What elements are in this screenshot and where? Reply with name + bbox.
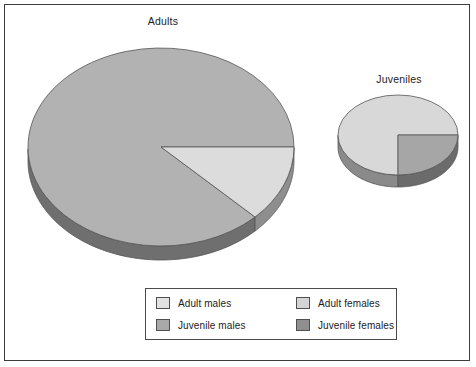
chart-canvas: Adults Juveniles Adult males Adult femal…: [0, 0, 476, 367]
chart-title-adults: Adults: [0, 15, 326, 27]
chart-legend: Adult males Adult females Juvenile males…: [145, 288, 397, 340]
legend-item-adult-females: Adult females: [296, 297, 396, 309]
legend-item-juvenile-males: Juvenile males: [156, 319, 296, 331]
pie-adults-svg: [0, 0, 340, 290]
legend-swatch-icon-adult-females: [296, 297, 310, 309]
legend-swatch-icon-juvenile-males: [156, 319, 170, 331]
pie-chart-adults: [0, 0, 340, 290]
legend-label-adult-males: Adult males: [178, 298, 231, 309]
legend-label-adult-females: Adult females: [318, 298, 380, 309]
juveniles-minor-slice-top: [398, 135, 458, 175]
legend-item-juvenile-females: Juvenile females: [296, 319, 396, 331]
pie-juveniles-svg: [320, 80, 476, 210]
legend-swatch-icon-juvenile-females: [296, 319, 310, 331]
pie-chart-juveniles: [320, 80, 476, 210]
legend-label-juvenile-females: Juvenile females: [318, 320, 394, 331]
legend-label-juvenile-males: Juvenile males: [178, 320, 246, 331]
chart-title-juveniles: Juveniles: [334, 73, 464, 85]
legend-swatch-icon-adult-males: [156, 297, 170, 309]
legend-item-adult-males: Adult males: [156, 297, 296, 309]
